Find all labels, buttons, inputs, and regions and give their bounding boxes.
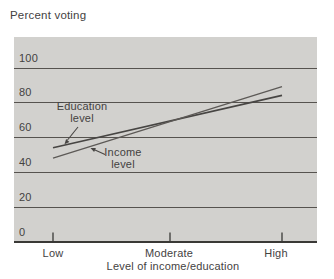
- voting-line-chart-figure: Percent voting Education level Income le…: [0, 0, 334, 279]
- chart-canvas: [0, 0, 334, 279]
- education-leader-arrow: [65, 127, 79, 144]
- x-tick-label-low: Low: [43, 247, 64, 259]
- education-series-label: Education level: [50, 101, 114, 124]
- y-tick-label-100: 100: [19, 52, 38, 65]
- y-tick-label-40: 40: [19, 156, 32, 169]
- income-series-label: Income level: [94, 147, 152, 170]
- y-tick-label-60: 60: [19, 121, 32, 134]
- x-axis-title: Level of income/education: [107, 260, 240, 272]
- y-tick-label-0: 0: [19, 226, 25, 239]
- y-tick-label-20: 20: [19, 191, 32, 204]
- x-tick-label-moderate: Moderate: [145, 247, 193, 259]
- y-tick-label-80: 80: [19, 86, 32, 99]
- x-tick-label-high: High: [264, 247, 287, 259]
